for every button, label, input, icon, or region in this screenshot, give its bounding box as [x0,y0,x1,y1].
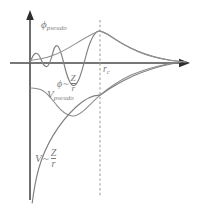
label-phi-coulomb-tilde: ~ [62,78,69,89]
label-v-pseudo-subscript: pseudo [54,94,74,101]
label-v-coulomb: V~Zr [35,148,57,170]
vertical-axis-arrowhead [26,10,34,20]
label-v-coulomb-base: V [35,152,42,164]
label-v-coulomb-denominator: r [51,159,57,169]
curve-phi-pseudo [30,31,186,62]
label-phi-pseudo: ϕpseudo [41,19,67,32]
pseudopotential-figure: ϕpseudo rc ϕ~Zr Vpseudo V~Zr [0,0,202,209]
figure-canvas [0,0,202,209]
label-v-coulomb-fraction: Zr [50,148,58,170]
curve-phi-all-electron [30,31,186,85]
label-phi-coulomb-numerator: Z [71,74,76,83]
vertical-axis [26,10,34,200]
label-v-pseudo-base: V [47,88,54,100]
horizontal-axis-arrowhead [179,59,190,67]
curve-v-all-electron [32,62,181,203]
label-cutoff-radius: rc [103,64,110,75]
label-v-pseudo: Vpseudo [47,89,74,102]
label-phi-pseudo-subscript: pseudo [47,24,67,31]
label-v-coulomb-tilde: ~ [42,152,50,164]
label-v-coulomb-numerator: Z [51,148,57,158]
label-cutoff-radius-subscript: c [107,68,110,75]
